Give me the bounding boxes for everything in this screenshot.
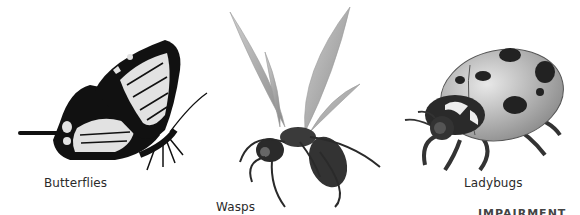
ladybugs-label: Ladybugs: [464, 176, 523, 190]
wasp-icon: [210, 2, 390, 212]
cropped-footer-label: IMPAIRMENT: [478, 207, 580, 215]
cropped-footer-text: IMPAIRMENT: [478, 206, 580, 215]
wasp-illustration: [210, 2, 390, 212]
butterflies-label: Butterflies: [44, 176, 107, 190]
ladybug-icon: [400, 40, 575, 175]
wasps-label: Wasps: [216, 200, 255, 214]
ladybug-illustration: [400, 40, 575, 175]
butterfly-icon: [15, 35, 210, 175]
butterfly-illustration: [15, 35, 210, 175]
